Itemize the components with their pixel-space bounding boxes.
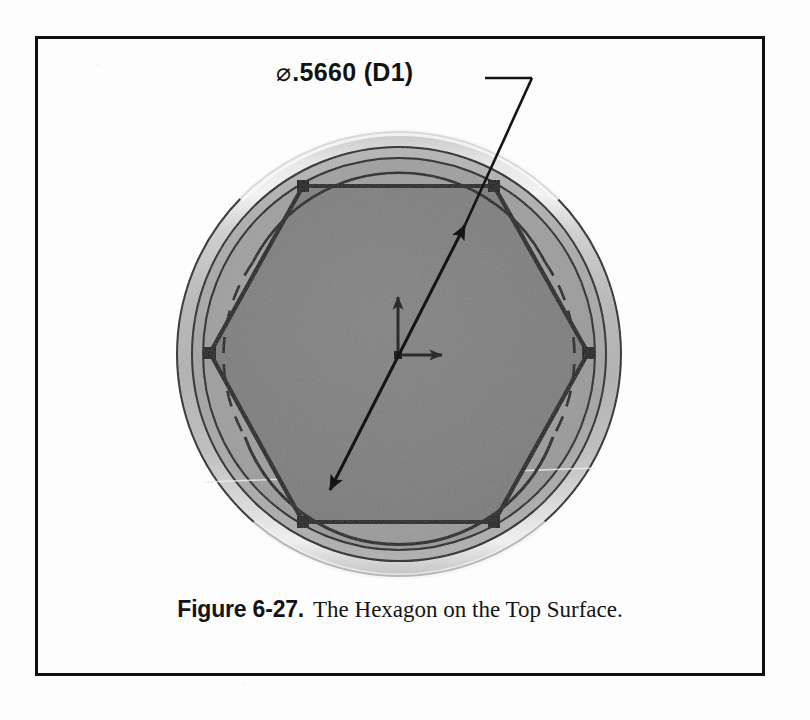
figure-number: Figure 6-27. [177, 596, 304, 622]
diameter-reference: (D1) [364, 58, 414, 86]
figure-caption-text: The Hexagon on the Top Surface. [313, 597, 623, 622]
figure-border [35, 36, 765, 676]
diameter-icon: ⌀ [276, 58, 291, 87]
figure-page: ⌀.5660 (D1) Figure 6-27.The Hexagon on t… [0, 0, 810, 720]
diameter-value: .5660 [292, 58, 356, 86]
diameter-dimension-label: ⌀.5660 (D1) [276, 58, 413, 87]
figure-caption: Figure 6-27.The Hexagon on the Top Surfa… [35, 596, 765, 623]
